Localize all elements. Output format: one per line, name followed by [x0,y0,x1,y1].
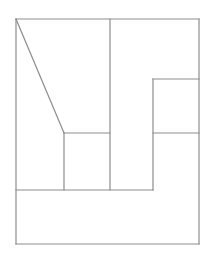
figure-background [0,0,213,258]
line-drawing-figure [0,0,213,258]
figure-canvas [0,0,213,258]
